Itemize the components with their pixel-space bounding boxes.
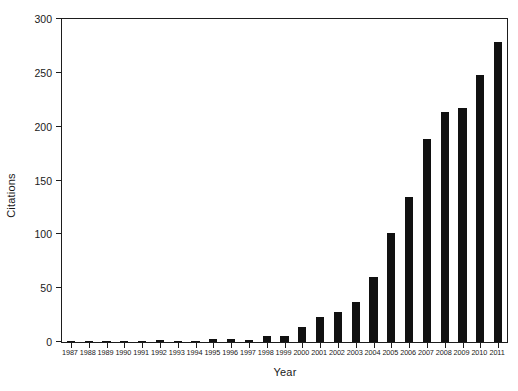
y-axis-tick-label: 100 — [34, 228, 52, 240]
x-axis-tick-label: 2002 — [328, 348, 346, 357]
y-axis-tick-label: 150 — [34, 175, 52, 187]
x-axis-tick-label: 2001 — [310, 348, 328, 357]
x-axis-tick-label: 2003 — [346, 348, 364, 357]
y-axis-tick-label: 0 — [46, 336, 52, 348]
x-axis-tick-label: 2011 — [488, 348, 506, 357]
bar — [387, 233, 395, 342]
bar — [458, 108, 466, 342]
x-axis-tick-label: 2000 — [292, 348, 310, 357]
x-axis-tick-label: 1998 — [257, 348, 275, 357]
x-axis-tick-label: 2008 — [435, 348, 453, 357]
x-axis-tick-label: 2009 — [453, 348, 471, 357]
x-axis-tick-label: 1992 — [150, 348, 168, 357]
x-axis-tick-label: 2006 — [399, 348, 417, 357]
bar — [441, 112, 449, 342]
y-axis-tick: 200 — [56, 126, 62, 127]
x-axis-title-text: Year — [273, 366, 296, 378]
bar — [405, 197, 413, 342]
y-axis-tick: 0 — [56, 341, 62, 342]
y-axis-title: Citations — [0, 0, 22, 391]
y-axis-tick: 250 — [56, 72, 62, 73]
x-axis-tick-label: 1991 — [132, 348, 150, 357]
x-axis-tick-label: 1996 — [221, 348, 239, 357]
x-axis-tick-label: 1997 — [239, 348, 257, 357]
bar — [369, 277, 377, 342]
x-axis-tick-label: 1990 — [114, 348, 132, 357]
x-axis-tick-label: 1989 — [97, 348, 115, 357]
bar — [352, 302, 360, 342]
bar — [476, 75, 484, 342]
x-axis-tick-label: 2005 — [381, 348, 399, 357]
x-axis-tick-label: 1999 — [275, 348, 293, 357]
y-axis-tick-label: 250 — [34, 67, 52, 79]
x-axis-title: Year — [65, 366, 505, 378]
bar — [298, 327, 306, 342]
citations-per-year-bar-chart: Citations 050100150200250300 Year 198719… — [0, 0, 518, 391]
y-axis-tick: 300 — [56, 18, 62, 19]
y-axis-title-text: Citations — [5, 173, 17, 218]
bar — [494, 42, 502, 342]
y-axis-tick: 50 — [56, 287, 62, 288]
x-axis-tick-label: 1995 — [203, 348, 221, 357]
plot-area: 050100150200250300 — [61, 18, 508, 343]
x-axis-tick-label: 1993 — [168, 348, 186, 357]
x-axis-tick-label: 1994 — [186, 348, 204, 357]
x-axis-tick-label: 2010 — [470, 348, 488, 357]
x-axis-tick-label: 2007 — [417, 348, 435, 357]
x-axis-tick-label: 2004 — [364, 348, 382, 357]
x-axis-tick-label: 1988 — [79, 348, 97, 357]
bar — [334, 312, 342, 342]
y-axis-tick-label: 50 — [40, 282, 52, 294]
x-axis-tick-label: 1987 — [61, 348, 79, 357]
bar — [423, 139, 431, 342]
y-axis-tick: 100 — [56, 233, 62, 234]
y-axis-tick-label: 300 — [34, 13, 52, 25]
bar — [316, 317, 324, 342]
y-axis-tick-label: 200 — [34, 121, 52, 133]
y-axis-tick: 150 — [56, 180, 62, 181]
